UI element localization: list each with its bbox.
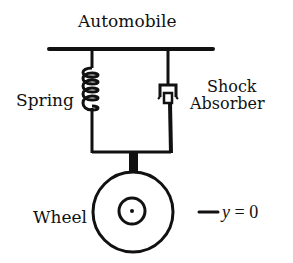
axle-stem [129,152,138,172]
wheel-center-dot [130,209,134,213]
label-equilibrium: y = 0 [222,203,258,221]
equation-rest: = 0 [230,202,258,222]
label-shock-line1: Shock [190,78,270,95]
shock-absorber [158,49,178,153]
label-shock-absorber: Shock Absorber [190,78,270,112]
label-spring: Spring [16,92,74,109]
label-shock-line2: Absorber [190,95,270,112]
equation-variable: y [222,202,230,222]
spring [83,49,98,153]
suspension-diagram: Automobile Spring Shock Absorber Wheel y… [0,0,293,263]
label-wheel: Wheel [33,209,87,226]
title-automobile: Automobile [78,13,176,30]
